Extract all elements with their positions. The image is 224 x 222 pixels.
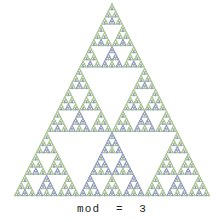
pascal-mod3-fractal (0, 0, 224, 200)
figure-caption: mod = 3 (0, 203, 224, 215)
figure-root: mod = 3 (0, 0, 224, 222)
